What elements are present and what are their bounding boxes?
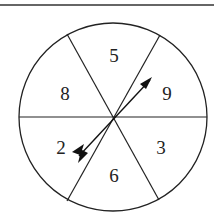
section-label-3: 3 bbox=[156, 137, 166, 158]
section-label-9: 9 bbox=[162, 83, 172, 104]
arrow-head-icon bbox=[140, 77, 152, 89]
section-label-6: 6 bbox=[109, 165, 119, 186]
spinner-arrow bbox=[72, 77, 152, 163]
section-label-8: 8 bbox=[60, 83, 70, 104]
spinner-diagram: 5 9 3 6 2 8 bbox=[0, 0, 214, 220]
section-label-5: 5 bbox=[109, 45, 119, 66]
section-label-2: 2 bbox=[56, 137, 66, 158]
arrow-tail-icon bbox=[72, 144, 88, 163]
